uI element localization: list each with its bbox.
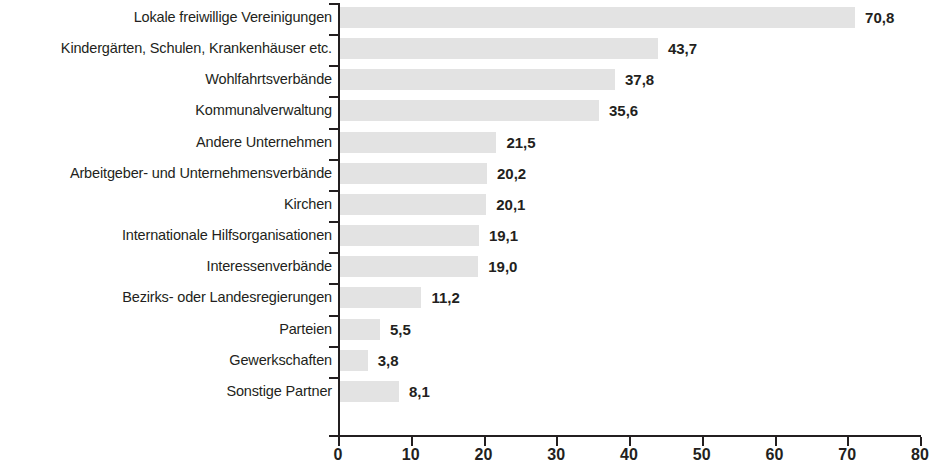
y-axis-tick — [329, 190, 338, 192]
y-axis-tick — [329, 435, 338, 437]
bar-row: Internationale Hilfsorganisationen19,1 — [0, 225, 941, 246]
bar-value-label: 19,1 — [489, 225, 518, 246]
bar-chart: Lokale freiwillige Vereinigungen70,8Kind… — [0, 0, 941, 468]
x-axis-tick-label: 60 — [755, 445, 795, 465]
y-axis-tick — [329, 252, 338, 254]
category-label-cell: Kommunalverwaltung — [0, 100, 332, 121]
bar-row: Andere Unternehmen21,5 — [0, 132, 941, 153]
category-label-cell: Andere Unternehmen — [0, 132, 332, 153]
bar-row: Gewerkschaften3,8 — [0, 350, 941, 371]
bar — [340, 38, 658, 59]
category-label-cell: Bezirks- oder Landesregierungen — [0, 287, 332, 308]
category-label-cell: Kirchen — [0, 194, 332, 215]
category-label: Andere Unternehmen — [196, 132, 332, 153]
bar-value-label: 43,7 — [668, 38, 697, 59]
category-label-cell: Gewerkschaften — [0, 350, 332, 371]
x-axis-tick-label: 40 — [609, 445, 649, 465]
y-axis-tick — [329, 65, 338, 67]
category-label-cell: Lokale freiwillige Vereinigungen — [0, 7, 332, 28]
bar — [340, 132, 496, 153]
y-axis-tick — [329, 377, 338, 379]
bar-value-label: 8,1 — [409, 381, 430, 402]
bar-row: Parteien5,5 — [0, 319, 941, 340]
y-axis-tick — [329, 3, 338, 5]
bar-row: Kindergärten, Schulen, Krankenhäuser etc… — [0, 38, 941, 59]
y-axis-line — [338, 3, 340, 437]
category-label: Kirchen — [284, 194, 332, 215]
bar-row: Lokale freiwillige Vereinigungen70,8 — [0, 7, 941, 28]
category-label-cell: Internationale Hilfsorganisationen — [0, 225, 332, 246]
y-axis-tick — [329, 221, 338, 223]
category-label-cell: Kindergärten, Schulen, Krankenhäuser etc… — [0, 38, 332, 59]
x-axis-tick-label: 0 — [318, 445, 358, 465]
bar-value-label: 20,1 — [496, 194, 525, 215]
bar-row: Sonstige Partner8,1 — [0, 381, 941, 402]
bar — [340, 350, 368, 371]
category-label-cell: Parteien — [0, 319, 332, 340]
x-axis-tick-label: 20 — [464, 445, 504, 465]
category-label-cell: Sonstige Partner — [0, 381, 332, 402]
bar — [340, 69, 615, 90]
bar — [340, 163, 487, 184]
bar — [340, 319, 380, 340]
y-axis-tick — [329, 346, 338, 348]
x-axis-tick-label: 10 — [391, 445, 431, 465]
category-label: Lokale freiwillige Vereinigungen — [134, 7, 332, 28]
category-label: Wohlfahrtsverbände — [205, 69, 332, 90]
category-label: Sonstige Partner — [226, 381, 332, 402]
category-label-cell: Wohlfahrtsverbände — [0, 69, 332, 90]
bar-row: Interessenverbände19,0 — [0, 256, 941, 277]
bar-row: Kommunalverwaltung35,6 — [0, 100, 941, 121]
category-label: Gewerkschaften — [229, 350, 332, 371]
bar — [340, 100, 599, 121]
category-label-cell: Arbeitgeber- und Unternehmensverbände — [0, 163, 332, 184]
bar-row: Wohlfahrtsverbände37,8 — [0, 69, 941, 90]
bar-value-label: 70,8 — [865, 7, 894, 28]
bar-value-label: 21,5 — [506, 132, 535, 153]
x-axis-tick-label: 80 — [900, 445, 940, 465]
bar-value-label: 37,8 — [625, 69, 654, 90]
x-axis-tick-label: 70 — [827, 445, 867, 465]
category-label: Arbeitgeber- und Unternehmensverbände — [70, 163, 332, 184]
bar-value-label: 5,5 — [390, 319, 411, 340]
bar — [340, 7, 855, 28]
x-axis-tick-label: 30 — [536, 445, 576, 465]
y-axis-tick — [329, 315, 338, 317]
y-axis-tick — [329, 128, 338, 130]
bar-value-label: 11,2 — [431, 287, 459, 308]
bar-row: Arbeitgeber- und Unternehmensverbände20,… — [0, 163, 941, 184]
bar-value-label: 3,8 — [378, 350, 399, 371]
bar — [340, 256, 478, 277]
bar — [340, 287, 421, 308]
x-axis-tick-label: 50 — [682, 445, 722, 465]
category-label: Bezirks- oder Landesregierungen — [122, 287, 332, 308]
y-axis-tick — [329, 159, 338, 161]
bar-value-label: 35,6 — [609, 100, 638, 121]
category-label-cell: Interessenverbände — [0, 256, 332, 277]
y-axis-tick — [329, 96, 338, 98]
bar-value-label: 20,2 — [497, 163, 526, 184]
category-label: Kommunalverwaltung — [195, 100, 332, 121]
bar — [340, 194, 486, 215]
bar — [340, 225, 479, 246]
y-axis-tick — [329, 283, 338, 285]
bar — [340, 381, 399, 402]
category-label: Internationale Hilfsorganisationen — [122, 225, 332, 246]
bar-row: Kirchen20,1 — [0, 194, 941, 215]
category-label: Parteien — [279, 319, 332, 340]
category-label: Kindergärten, Schulen, Krankenhäuser etc… — [61, 38, 332, 59]
bar-row: Bezirks- oder Landesregierungen11,2 — [0, 287, 941, 308]
y-axis-tick — [329, 34, 338, 36]
bar-value-label: 19,0 — [488, 256, 517, 277]
category-label: Interessenverbände — [207, 256, 332, 277]
